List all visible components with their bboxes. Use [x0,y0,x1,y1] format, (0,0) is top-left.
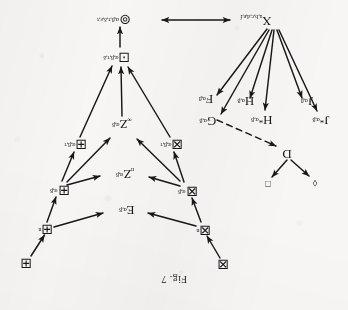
subscript-infinity: ∞ [128,117,132,123]
circled-dot-icon: ⊚ [119,12,131,27]
f-letter: F [206,92,213,107]
edge-d-to-diamond [291,160,309,176]
node-box-plus-n[interactable]: ⊞n [39,222,54,236]
superscript-alpha-beta: α,β [200,118,207,124]
node-h-star-alpha-beta[interactable]: H*α,β [251,114,272,127]
star-marker: * [259,115,264,125]
j-letter: J [308,94,313,109]
node-f-alpha-beta[interactable]: Fα,β [199,93,213,106]
edge-d-to-square [272,160,287,177]
node-box-plus-ab[interactable]: ⊞α,β [50,183,69,197]
edge-x-to-hstar [265,30,274,110]
node-square-small[interactable]: □ [265,179,270,188]
node-g-alpha-beta[interactable]: Gα,β [200,115,217,128]
superscript-alpha-beta: α,β [119,207,126,213]
superscript-alpha-beta: α,β [116,172,123,178]
superscript-alpha-beta: α,β [112,122,119,128]
box-x-icon: ⊠ [217,257,229,272]
x-letter: X [262,14,271,29]
z-letter: Z [120,117,128,132]
d-letter: D [282,147,291,162]
node-x[interactable]: Xa,b,c,d,e,f [240,14,271,28]
node-box-x-n[interactable]: ⊠n [197,223,212,237]
node-j-alpha-beta[interactable]: Jα,β [301,95,313,108]
node-j-star-alpha-beta[interactable]: J*α,β [313,114,330,127]
superscript-alpha-beta: α,β [199,96,206,102]
edge-boxx-ab-to-zn [149,177,180,186]
edge-boxplus-n-to-boxplus-ab [47,197,56,222]
box-x-icon: ⊠ [199,223,211,238]
node-box-dot[interactable]: ⊡α,β,τ,δ [104,50,131,64]
star-marker: * [320,115,325,125]
superscript-alpha-beta-tau-delta: α,β,τ,δ [104,55,119,61]
edge-x-to-j [277,30,302,98]
g-letter: G [207,114,216,129]
superscript-alpha-beta-tau-delta-epsilon-tau: α,β,τ,δ,ε,τ [97,17,119,23]
superscript-n: n [197,228,200,234]
figure-page: ⊠ ⊠n ⊠α,β ⊠α,β,τ ⊞ ⊞n ⊞α,β ⊞α,β,τ [0,0,348,310]
diamond-icon: ◊ [313,178,317,188]
superscript-alpha-beta: α,β [178,189,185,195]
subscript-abcdef: a,b,c,d,e,f [240,14,262,20]
z-letter: Z [123,167,131,182]
superscript-alpha-beta: α,β [301,98,308,104]
node-box-x-abt[interactable]: ⊠α,β,τ [161,137,184,151]
node-z-infinity-alpha-beta[interactable]: ∞Zα,β [112,117,131,131]
subscript-n: n [131,167,134,173]
edge-x-to-f [217,29,267,95]
box-dot-icon: ⊡ [118,50,130,65]
edge-boxx-n-to-e [148,213,196,226]
rotated-figure-container: ⊠ ⊠n ⊠α,β ⊠α,β,τ ⊞ ⊞n ⊞α,β ⊞α,β,τ [0,0,348,310]
box-plus-icon: ⊞ [41,222,53,237]
edge-boxplus-abt-to-boxdot [80,66,112,137]
square-icon: □ [265,179,270,189]
node-h-alpha-beta[interactable]: Hα,β [238,95,255,108]
h-letter: H [263,113,272,128]
j-letter: J [324,113,329,128]
node-box-x-top[interactable]: ⊠ [217,257,229,271]
edge-zinf-to-boxdot [121,67,122,116]
box-x-icon: ⊠ [171,137,183,152]
superscript-alpha-beta: α,β [313,117,320,123]
node-e-alpha-beta[interactable]: Eα,β [119,204,134,217]
superscript-alpha-beta-tau: α,β,τ [161,142,172,148]
superscript-alpha-beta: α,β [238,98,245,104]
e-letter: E [127,203,135,218]
node-diamond-small[interactable]: ◊ [313,178,317,187]
superscript-alpha-beta: α,β [50,188,57,194]
figure-caption: Fig. 7 [161,274,187,285]
edge-boxplus-top-to-boxplus-n [31,235,45,256]
superscript-n: n [39,227,42,233]
node-box-plus-abt[interactable]: ⊞α,β,τ [65,137,88,151]
edge-boxx-top-to-boxx-n [207,236,220,258]
edge-boxplus-n-to-e [54,213,103,227]
superscript-alpha-beta: α,β [251,117,258,123]
node-box-plus-top[interactable]: ⊞ [20,256,32,270]
node-z-n-alpha-beta[interactable]: nZα,β [116,167,134,181]
edge-boxx-abt-to-boxdot [128,67,170,137]
box-plus-icon: ⊞ [58,183,70,198]
box-x-icon: ⊠ [186,184,198,199]
node-box-x-ab[interactable]: ⊠α,β [178,184,197,198]
h-letter: H [245,94,254,109]
edge-boxx-n-to-boxx-ab [192,198,201,222]
box-plus-icon: ⊞ [75,137,87,152]
edge-x-to-h [250,30,272,98]
node-d[interactable]: D [282,148,291,161]
superscript-alpha-beta-tau: α,β,τ [65,142,76,148]
box-plus-icon: ⊞ [20,256,32,271]
diagram-arrows [0,0,348,310]
node-circ-dot[interactable]: ⊚α,β,τ,δ,ε,τ [97,12,131,26]
